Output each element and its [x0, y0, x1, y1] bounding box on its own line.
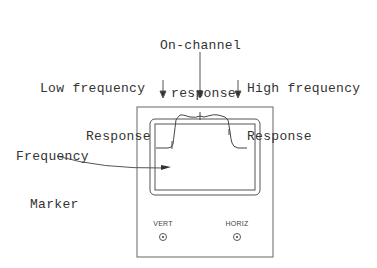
response-curve — [156, 115, 247, 148]
horiz-control-label: HORIZ — [222, 220, 252, 227]
horiz-knob — [234, 234, 241, 241]
on-channel-label: On-channel response — [160, 6, 241, 118]
on-channel-label-line1: On-channel — [160, 38, 241, 54]
vert-control-label: VERT — [148, 220, 178, 227]
low-frequency-label-line1: Low frequency — [40, 81, 151, 97]
screen — [155, 124, 255, 190]
frequency-marker-label-line1: Frequency — [16, 149, 89, 165]
high-frequency-label: High frequency Response — [247, 49, 360, 161]
high-frequency-label-line2: Response — [247, 129, 360, 145]
vert-knob — [160, 234, 167, 241]
frequency-marker-label-line2: Marker — [16, 197, 89, 213]
screen-bezel — [150, 119, 260, 195]
frequency-marker-label: Frequency Marker — [16, 117, 89, 229]
on-channel-label-line2: response — [160, 86, 241, 102]
high-frequency-label-line1: High frequency — [247, 81, 360, 97]
